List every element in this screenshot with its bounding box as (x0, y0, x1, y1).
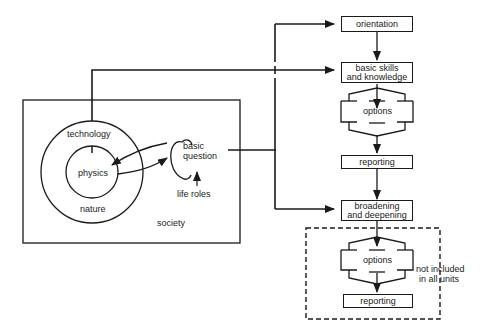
optional-note-line2: in all units (419, 274, 459, 284)
broadening-box: broadening and deepening (341, 200, 413, 221)
reporting-2-box: reporting (343, 294, 413, 308)
broadening-label-line2: and deepening (347, 211, 407, 220)
basic-skills-label-line2: and knowledge (347, 73, 408, 82)
basic-question-label-line1: basic (183, 141, 204, 151)
society-label: society (157, 218, 185, 228)
technology-label: technology (67, 129, 111, 139)
life-roles-label: life roles (177, 189, 211, 199)
reporting-1-box: reporting (341, 155, 413, 169)
technology-to-basic-skills-line (92, 70, 334, 121)
optional-note-line1: not included (416, 264, 465, 274)
basic-question-label-line2: question (183, 151, 217, 161)
reporting-2-label: reporting (360, 296, 396, 306)
physics-label: physics (78, 168, 108, 178)
diagram-canvas (0, 0, 489, 335)
nature-label: nature (80, 204, 106, 214)
options-2-label: options (363, 255, 392, 265)
orientation-label: orientation (356, 19, 398, 29)
orientation-box: orientation (341, 16, 413, 32)
basic-skills-box: basic skills and knowledge (341, 62, 413, 83)
options-1-label: options (363, 106, 392, 116)
reporting-1-label: reporting (359, 157, 395, 167)
